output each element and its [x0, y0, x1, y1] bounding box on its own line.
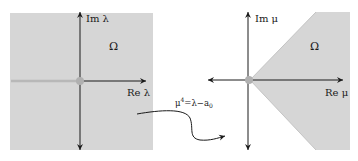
im-mu-label: Im μ — [255, 13, 279, 24]
mu-region-omega — [250, 12, 350, 150]
re-lambda-label: Re λ — [127, 87, 151, 98]
conformal-map-diagram: Im λ Re λ Ω Im μ Re μ Ω μ4=λ−a0 — [0, 0, 358, 161]
lambda-origin-point — [76, 77, 84, 85]
mu-plane: Im μ Re μ Ω — [208, 12, 350, 150]
lambda-omega-label: Ω — [109, 40, 118, 53]
re-mu-label: Re μ — [325, 87, 349, 98]
mapping-formula: μ4=λ−a0 — [175, 96, 213, 109]
lambda-plane: Im λ Re λ Ω — [10, 12, 153, 150]
mu-omega-label: Ω — [310, 40, 319, 53]
mu-origin-point — [245, 76, 253, 84]
im-lambda-label: Im λ — [86, 13, 110, 24]
